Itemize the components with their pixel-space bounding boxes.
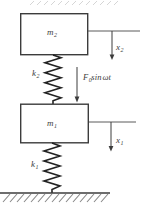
spring-k2 <box>45 55 61 104</box>
spring-mass-system-diagram: m2 m1 k2 k1 x2 x1 F0sin ωt <box>0 0 142 216</box>
spring-k2-label: k2 <box>32 69 39 78</box>
mass1-label: m1 <box>47 119 57 128</box>
x2-arrowhead <box>110 55 115 61</box>
x1-displacement-label: x1 <box>116 136 123 145</box>
diagram-linework <box>0 0 142 216</box>
x2-displacement-label: x2 <box>116 43 123 52</box>
mass2-label: m2 <box>47 28 57 37</box>
x1-arrowhead <box>109 146 114 152</box>
top-hatching <box>30 1 118 5</box>
spring-k1 <box>44 143 60 193</box>
spring-k1-label: k1 <box>31 160 38 169</box>
ground-hatching <box>3 194 108 202</box>
force-arrowhead <box>75 97 80 103</box>
force-label: F0sin ωt <box>83 73 111 82</box>
